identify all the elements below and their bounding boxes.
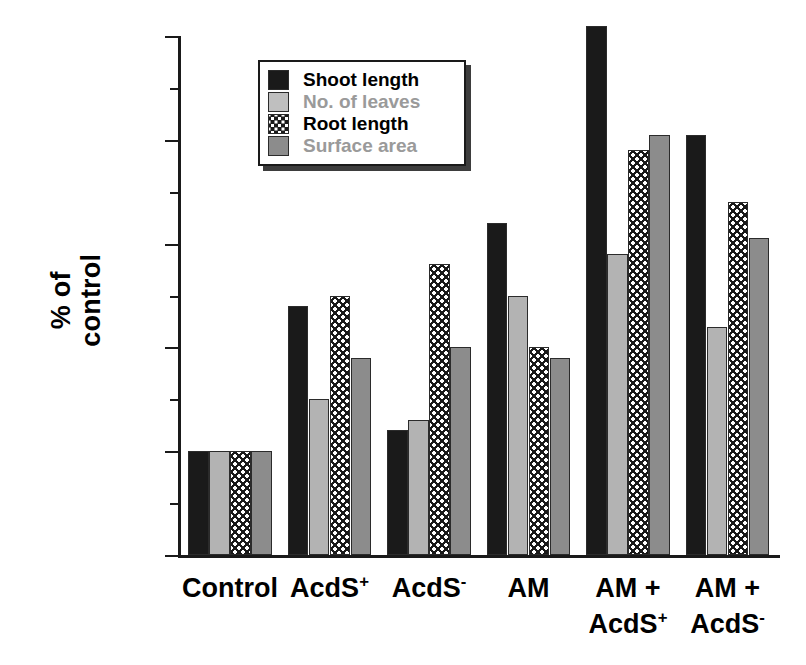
legend-item[interactable]: Root length — [268, 113, 456, 135]
bar-leaves[interactable] — [309, 399, 330, 555]
x-label-superscript: - — [759, 608, 765, 627]
y-axis-minor-tick — [170, 296, 179, 298]
bar-root[interactable] — [230, 451, 251, 555]
x-label-line1: AM — [508, 573, 550, 603]
legend-swatch-leaves-icon — [268, 92, 289, 112]
y-axis-major-tick — [165, 36, 179, 38]
legend-swatch-surface-icon — [268, 136, 289, 156]
bar-root[interactable] — [429, 264, 450, 555]
bar-root[interactable] — [728, 202, 749, 555]
bar-shoot[interactable] — [288, 306, 309, 555]
bar-group — [686, 36, 770, 555]
bar-surface[interactable] — [351, 358, 372, 555]
bar-group — [586, 36, 670, 555]
y-axis-minor-tick — [170, 192, 179, 194]
bar-shoot[interactable] — [387, 430, 408, 555]
bar-leaves[interactable] — [607, 254, 628, 555]
bar-leaves[interactable] — [707, 327, 728, 555]
legend-label: Root length — [303, 113, 409, 135]
bar-root[interactable] — [628, 150, 649, 555]
y-axis-major-tick — [165, 555, 179, 557]
x-axis-label-5: AM +AcdS- — [648, 570, 806, 643]
legend-item[interactable]: Surface area — [268, 135, 456, 157]
bar-surface[interactable] — [450, 347, 471, 555]
bar-shoot[interactable] — [188, 451, 209, 555]
bar-surface[interactable] — [749, 238, 770, 555]
bar-group — [487, 36, 571, 555]
x-axis-line — [178, 555, 780, 558]
legend-label: Surface area — [303, 135, 417, 157]
x-label-line2: AcdS- — [690, 609, 765, 639]
bar-surface[interactable] — [649, 135, 670, 555]
legend-swatch-shoot-icon — [268, 70, 289, 90]
legend-swatch-root-icon — [268, 114, 289, 134]
bar-leaves[interactable] — [209, 451, 230, 555]
y-axis-major-tick — [165, 244, 179, 246]
y-axis-major-tick — [165, 140, 179, 142]
y-axis-major-tick — [165, 451, 179, 453]
bar-root[interactable] — [330, 296, 351, 556]
bar-chart-figure: % of control 90100110120130140 ControlAc… — [0, 0, 806, 665]
y-axis-minor-tick — [170, 399, 179, 401]
bar-leaves[interactable] — [408, 420, 429, 555]
bar-surface[interactable] — [550, 358, 571, 555]
legend-item[interactable]: No. of leaves — [268, 91, 456, 113]
y-axis-minor-tick — [170, 503, 179, 505]
y-axis-title: % of control — [46, 240, 106, 360]
legend-label: Shoot length — [303, 69, 419, 91]
bar-leaves[interactable] — [508, 296, 529, 556]
bar-surface[interactable] — [251, 451, 272, 555]
bar-shoot[interactable] — [586, 26, 607, 555]
legend-label: No. of leaves — [303, 91, 420, 113]
y-axis-minor-tick — [170, 88, 179, 90]
chart-legend: Shoot lengthNo. of leavesRoot lengthSurf… — [258, 60, 466, 166]
legend-item[interactable]: Shoot length — [268, 69, 456, 91]
bar-shoot[interactable] — [686, 135, 707, 555]
y-axis-major-tick — [165, 347, 179, 349]
x-label-line1: AM + — [695, 573, 760, 603]
bar-root[interactable] — [529, 347, 550, 555]
bar-shoot[interactable] — [487, 223, 508, 555]
